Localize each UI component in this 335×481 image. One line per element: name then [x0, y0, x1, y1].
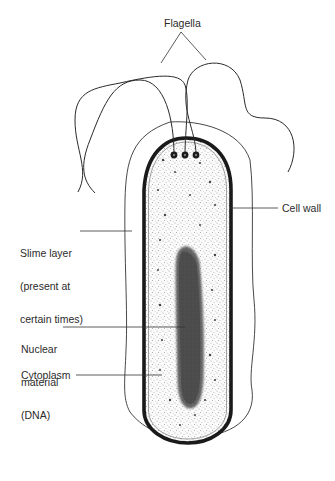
label-flagella: Flagella	[164, 18, 201, 29]
basal-bodies	[171, 152, 200, 159]
nuclear-core	[179, 252, 200, 404]
label-cell-wall: Cell wall	[282, 203, 321, 214]
label-cytoplasm: Cytoplasm	[21, 370, 71, 381]
label-slime-layer: Slime layer (present at certain times)	[20, 226, 83, 336]
flagella-leader	[161, 32, 206, 63]
